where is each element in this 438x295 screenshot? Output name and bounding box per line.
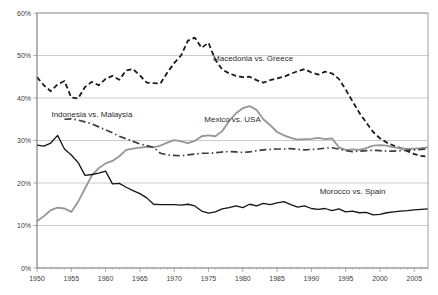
series-label-1: Mexico vs. USA [204,115,261,124]
gridlines-group [37,13,428,268]
series-labels-group: Macedonia vs. GreeceMexico vs. USAIndone… [51,54,385,197]
ytick-label-0: 0% [21,265,31,272]
xtick-label-2000: 2000 [372,275,388,282]
xtick-label-1955: 1955 [64,275,80,282]
ytick-labels-group: 0%10%20%30%40%50%60% [17,10,31,272]
series-label-0: Macedonia vs. Greece [213,54,294,63]
xtick-label-1965: 1965 [132,275,148,282]
ytick-label-20: 20% [17,180,31,187]
series-label-2: Indonesia vs. Malaysia [51,110,132,119]
xtick-label-1950: 1950 [29,275,45,282]
series-label-3: Morocco vs. Spain [320,187,386,196]
ytick-marks-group [34,13,38,268]
ytick-label-10: 10% [17,222,31,229]
xtick-label-1960: 1960 [98,275,114,282]
xtick-label-1975: 1975 [201,275,217,282]
ytick-label-60: 60% [17,10,31,17]
chart-container: 0%10%20%30%40%50%60% 1950195519601965197… [0,0,438,295]
ytick-label-30: 30% [17,137,31,144]
xtick-label-1980: 1980 [235,275,251,282]
ytick-label-40: 40% [17,95,31,102]
xtick-labels-group: 1950195519601965197019751980198519901995… [29,275,422,282]
xtick-label-1985: 1985 [269,275,285,282]
xtick-marks-group [37,268,428,272]
xtick-label-1995: 1995 [338,275,354,282]
line-chart: 0%10%20%30%40%50%60% 1950195519601965197… [0,0,438,295]
xtick-label-2005: 2005 [406,275,422,282]
series-line-2 [64,119,428,156]
xtick-label-1970: 1970 [166,275,182,282]
xtick-label-1990: 1990 [304,275,320,282]
ytick-label-50: 50% [17,52,31,59]
